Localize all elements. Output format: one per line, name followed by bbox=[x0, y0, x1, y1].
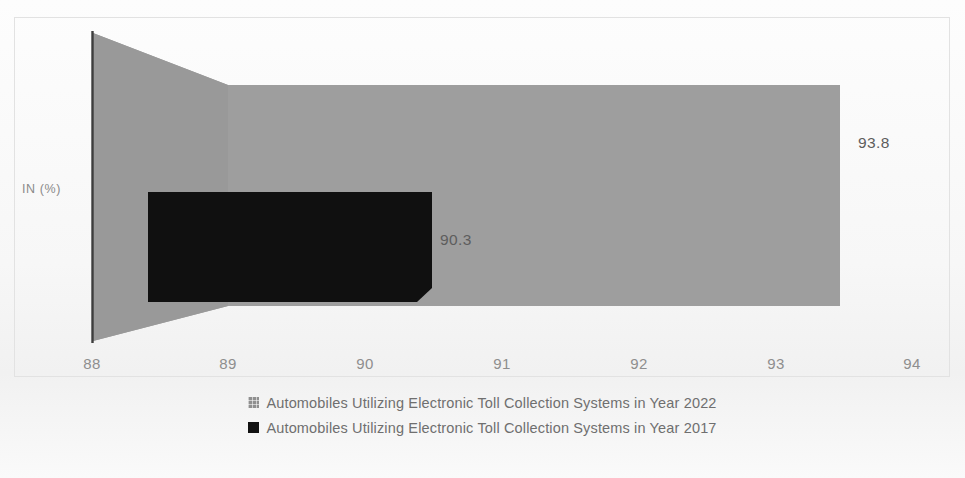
x-axis-tick-91: 91 bbox=[482, 355, 522, 372]
x-axis-tick-88: 88 bbox=[72, 355, 112, 372]
legend-swatch-solid-icon bbox=[248, 422, 259, 433]
data-label-2017: 90.3 bbox=[440, 231, 472, 249]
x-axis-tick-92: 92 bbox=[619, 355, 659, 372]
chart-legend: Automobiles Utilizing Electronic Toll Co… bbox=[0, 390, 965, 440]
data-label-2022: 93.8 bbox=[858, 134, 890, 152]
x-axis-tick-90: 90 bbox=[345, 355, 385, 372]
x-axis-tick-94: 94 bbox=[892, 355, 932, 372]
plot-area: IN (%) 93.8 90.3 88 89 90 91 92 93 94 Au… bbox=[0, 0, 965, 478]
legend-label-2017: Automobiles Utilizing Electronic Toll Co… bbox=[266, 420, 716, 436]
chart-container: IN (%) 93.8 90.3 88 89 90 91 92 93 94 Au… bbox=[0, 0, 965, 478]
bar-2017-3d-body bbox=[148, 192, 432, 302]
legend-item-2022[interactable]: Automobiles Utilizing Electronic Toll Co… bbox=[0, 390, 965, 415]
legend-label-2022: Automobiles Utilizing Electronic Toll Co… bbox=[266, 395, 716, 411]
legend-swatch-hatched-icon bbox=[248, 397, 259, 408]
x-axis-tick-93: 93 bbox=[756, 355, 796, 372]
x-axis-tick-89: 89 bbox=[208, 355, 248, 372]
y-axis-title: IN (%) bbox=[22, 182, 61, 196]
legend-item-2017[interactable]: Automobiles Utilizing Electronic Toll Co… bbox=[0, 415, 965, 440]
